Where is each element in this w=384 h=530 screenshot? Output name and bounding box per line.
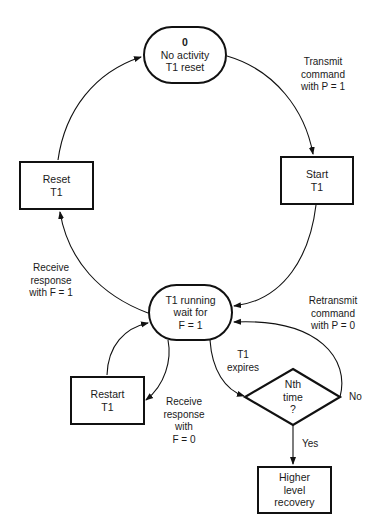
label-text: T1	[220, 349, 266, 362]
label-text: with F = 1	[22, 287, 80, 300]
box-text: T1	[101, 401, 113, 414]
label-text: response	[22, 275, 80, 288]
state-text: wait for	[174, 306, 208, 319]
box-start-t1: Start T1	[280, 156, 354, 205]
state-text: T1 running	[165, 294, 215, 307]
label-text: response	[158, 409, 210, 422]
label-yes: Yes	[302, 438, 318, 451]
box-text: Start	[306, 168, 328, 181]
edge-start-to-running	[234, 205, 316, 306]
label-receive-f1: Receive response with F = 1	[22, 262, 80, 300]
label-text: command	[288, 69, 358, 82]
edge-restart-to-running	[107, 323, 148, 375]
decision-text: ?	[268, 403, 318, 416]
label-t1-expires: T1 expires	[220, 349, 266, 374]
box-text: level	[284, 484, 306, 497]
label-retransmit: Retransmit command with P = 0	[300, 295, 366, 333]
label-text: Receive	[22, 262, 80, 275]
box-text: recovery	[274, 496, 314, 509]
box-text: Restart	[91, 388, 125, 401]
label-no: No	[349, 391, 362, 404]
state-idle-line: T1 reset	[166, 61, 205, 74]
label-text: Receive	[158, 396, 210, 409]
label-text: Transmit	[288, 56, 358, 69]
state-idle: 0 No activity T1 reset	[143, 26, 227, 84]
label-transmit: Transmit command with P = 1	[288, 56, 358, 94]
box-text: T1	[311, 181, 323, 194]
state-text: F = 1	[178, 319, 202, 332]
state-idle-number: 0	[182, 36, 188, 49]
label-text: with P = 0	[300, 320, 366, 333]
box-restart-t1: Restart T1	[70, 376, 145, 425]
edge-reset-to-idle	[58, 57, 141, 160]
label-text: Retransmit	[300, 295, 366, 308]
box-higher-level-recovery: Higher level recovery	[257, 466, 332, 514]
edge-running-to-restart	[146, 340, 169, 400]
label-text: with	[158, 421, 210, 434]
label-text: expires	[220, 362, 266, 375]
box-text: T1	[50, 186, 62, 199]
decision-label: Nth time ?	[268, 378, 318, 416]
state-idle-line: No activity	[161, 49, 209, 62]
label-text: F = 0	[158, 434, 210, 447]
label-receive-f0: Receive response with F = 0	[158, 396, 210, 446]
state-running: T1 running wait for F = 1	[148, 284, 233, 341]
decision-text: time	[268, 391, 318, 404]
box-reset-t1: Reset T1	[19, 161, 94, 210]
box-text: Reset	[43, 173, 70, 186]
label-text: command	[300, 308, 366, 321]
label-text: with P = 1	[288, 81, 358, 94]
box-text: Higher	[279, 471, 310, 484]
decision-text: Nth	[268, 378, 318, 391]
